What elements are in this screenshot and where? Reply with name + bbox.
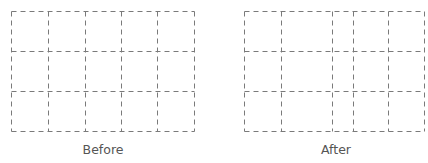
after-label: After	[321, 142, 351, 157]
after-grid	[0, 0, 428, 140]
after-panel: After	[0, 0, 428, 163]
